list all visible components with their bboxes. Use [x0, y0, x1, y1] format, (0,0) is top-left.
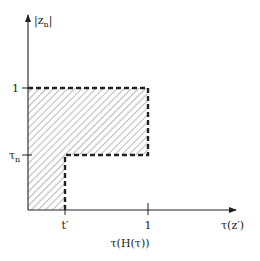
- x-caption: τ(H(τ)): [111, 237, 150, 250]
- x-axis-label: τ(z′): [221, 219, 244, 232]
- y-tick-label-1: 1: [12, 82, 19, 95]
- y-axis-label: |zn|: [34, 14, 52, 29]
- hatched-region: [28, 88, 148, 210]
- x-tick-label-1: 1: [145, 219, 152, 232]
- y-tick-label-tau-n: τn: [9, 149, 20, 164]
- diagram-canvas: |zn| 1 τn t′ 1 τ(z′) τ(H(τ)): [0, 0, 260, 261]
- x-tick-label-t-prime: t′: [62, 219, 69, 232]
